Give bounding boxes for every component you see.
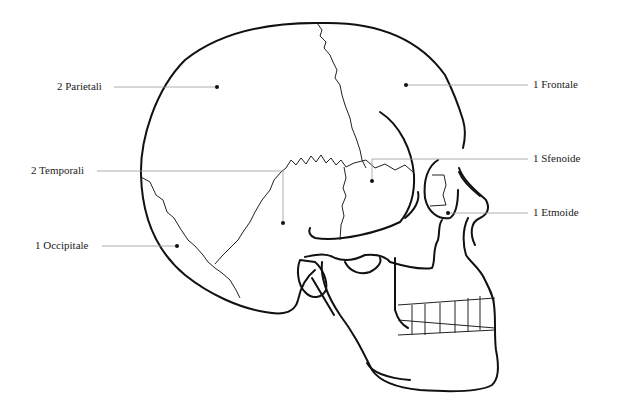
maxilla-front [464, 218, 494, 305]
cranium-outline [141, 23, 323, 314]
label-sfenoide: 1 Sfenoide [533, 153, 580, 164]
squamosal-suture [281, 155, 413, 172]
forehead-outline [323, 23, 465, 148]
temporal-line [309, 112, 414, 239]
mandible [322, 262, 498, 391]
orbit-inner [430, 175, 446, 206]
label-temporali: 2 Temporali [31, 165, 84, 176]
dot-sfenoide [370, 179, 374, 183]
orbit [425, 160, 458, 218]
coronal-suture [317, 23, 366, 168]
temporal-lower-suture [215, 172, 281, 264]
zygomatic-arch [305, 220, 442, 268]
dot-parietali [215, 85, 219, 89]
label-occipitale: 1 Occipitale [35, 240, 88, 251]
label-frontale: 1 Frontale [533, 79, 578, 90]
teeth [398, 296, 495, 335]
label-etmoide: 1 Etmoide [533, 207, 579, 218]
dot-temporali [281, 221, 285, 225]
mandible-ramus [395, 258, 408, 328]
sphenoid-suture [340, 167, 346, 240]
leader-temporali [97, 171, 283, 223]
dot-frontale [404, 83, 408, 87]
dot-occipitale [175, 244, 179, 248]
dot-etmoide [446, 211, 450, 215]
skull-diagram [0, 0, 617, 415]
label-parietali: 2 Parietali [57, 81, 102, 92]
